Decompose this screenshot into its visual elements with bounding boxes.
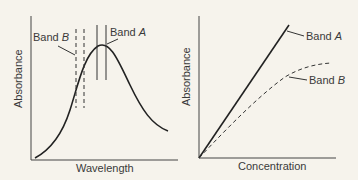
band-a-leader-left	[107, 39, 118, 44]
figure-canvas: Band B Band A Absorbance Wavelength Band…	[0, 0, 358, 180]
spectrum-y-axis-label: Absorbance	[12, 49, 24, 108]
calibration-panel: Band A Band B Absorbance Concentration	[180, 16, 345, 172]
band-a-calibration-line	[199, 25, 289, 158]
spectrum-x-axis-label: Wavelength	[76, 162, 134, 174]
band-a-leader-right	[287, 31, 304, 36]
band-b-label-right: Band B	[309, 74, 345, 86]
band-b-leader-right	[289, 77, 307, 80]
band-b-label-left: Band B	[33, 31, 69, 43]
calibration-x-axis-label: Concentration	[238, 160, 307, 172]
band-a-label-right: Band A	[306, 30, 342, 42]
band-b-leader-left	[58, 46, 75, 55]
band-a-label-left: Band A	[110, 26, 146, 38]
spectrum-panel: Band B Band A Absorbance Wavelength	[12, 16, 178, 174]
absorption-curve	[35, 45, 168, 158]
calibration-y-axis-label: Absorbance	[180, 47, 192, 106]
